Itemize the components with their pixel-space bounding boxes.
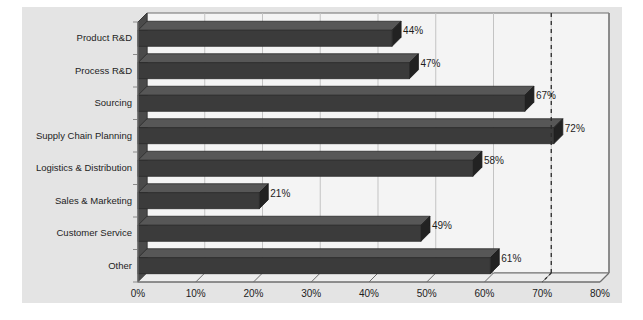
bar-chart: Product R&DProcess R&DSourcingSupply Cha… xyxy=(0,0,643,320)
data-value-label: 61% xyxy=(501,253,521,264)
data-value-label: 72% xyxy=(565,123,585,134)
data-value-labels: 44%47%67%72%58%21%49%61% xyxy=(0,0,643,320)
data-value-label: 67% xyxy=(536,90,556,101)
data-value-label: 49% xyxy=(432,220,452,231)
data-value-label: 44% xyxy=(403,25,423,36)
data-value-label: 58% xyxy=(484,155,504,166)
data-value-label: 47% xyxy=(420,58,440,69)
data-value-label: 21% xyxy=(270,188,290,199)
